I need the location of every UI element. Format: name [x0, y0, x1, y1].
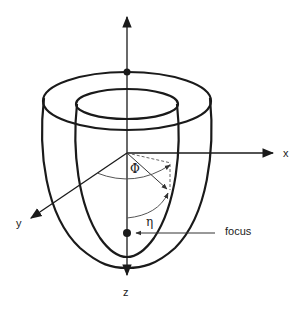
y-axis	[31, 153, 127, 218]
focus-dot	[123, 229, 131, 237]
phi-label: Φ	[130, 162, 140, 176]
focus-label: focus	[225, 225, 252, 237]
spheroid-diagram: x y z Φ η focus	[0, 0, 305, 312]
x-axis-label: x	[283, 147, 289, 159]
diagram-canvas: x y z Φ η focus	[0, 0, 305, 312]
z-axis-label: z	[123, 286, 129, 298]
y-axis-label: y	[16, 217, 22, 229]
eta-label: η	[146, 215, 153, 229]
pole-dot	[124, 69, 131, 76]
